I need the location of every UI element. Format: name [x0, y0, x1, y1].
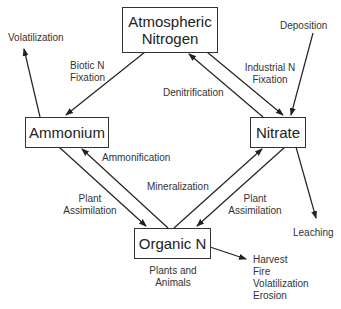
label-plants-animals: Plants and Animals: [138, 265, 208, 289]
label-ammonification: Ammonification: [102, 152, 170, 164]
label-plant-assimilation-right: Plant Assimilation: [223, 193, 287, 217]
arrow-leaching: [296, 147, 316, 218]
label-biotic-fixation: Biotic N Fixation: [70, 60, 105, 84]
label-losses: Harvest Fire Volatilization Erosion: [253, 254, 309, 302]
label-plant-assimilation-left: Plant Assimilation: [58, 193, 122, 217]
node-atmospheric-nitrogen: Atmospheric Nitrogen: [122, 7, 218, 53]
label-denitrification: Denitrification: [163, 87, 224, 99]
node-ammonium: Ammonium: [25, 117, 109, 148]
arrow-volatilization: [24, 49, 40, 117]
label-mineralization: Mineralization: [147, 181, 209, 193]
label-volatilization-top: Volatilization: [8, 32, 64, 44]
arrow-losses: [210, 247, 246, 259]
label-leaching: Leaching: [293, 227, 334, 239]
node-organic-n: Organic N: [134, 228, 211, 259]
label-deposition: Deposition: [280, 20, 327, 32]
label-industrial-fixation: Industrial N Fixation: [240, 62, 300, 86]
node-nitrate: Nitrate: [250, 117, 306, 148]
